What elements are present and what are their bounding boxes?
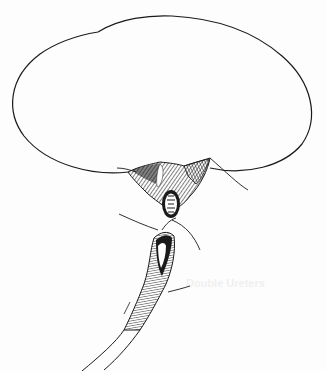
bladder-outline [13,16,312,173]
page-background: Double Ureters [0,0,327,371]
bladder-neck-flaps [128,158,210,218]
bladder-ureter-illustration [0,0,327,371]
ureter [82,232,175,371]
